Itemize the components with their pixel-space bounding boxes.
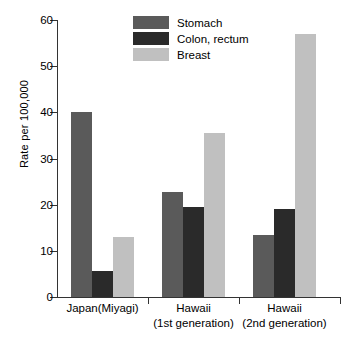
x-axis-group-label-line1: Hawaii: [267, 302, 302, 314]
y-axis-tick-label: 20: [40, 199, 53, 211]
bar-chart: Rate per 100,000 0102030405060 StomachCo…: [0, 0, 350, 350]
bar: [113, 237, 134, 297]
y-axis-tick-label: 60: [40, 14, 53, 26]
bar: [274, 209, 295, 297]
x-axis-group-label: Hawaii(2nd generation): [225, 301, 345, 331]
legend-label: Colon, rectum: [177, 33, 249, 45]
bar: [204, 133, 225, 297]
legend-item: Colon, rectum: [133, 32, 249, 45]
legend-item: Stomach: [133, 16, 249, 29]
x-axis-group-label-line1: Japan(Miyagi): [66, 302, 138, 314]
legend-swatch: [133, 16, 169, 29]
legend-label: Stomach: [177, 17, 222, 29]
y-axis-title: Rate per 100,000: [18, 54, 30, 194]
legend-swatch: [133, 48, 169, 61]
legend-swatch: [133, 32, 169, 45]
legend-item: Breast: [133, 48, 249, 61]
y-axis-tick-label: 40: [40, 106, 53, 118]
x-axis-group-label-line2: (2nd generation): [225, 316, 345, 331]
legend-label: Breast: [177, 49, 210, 61]
bar: [183, 207, 204, 297]
bar: [253, 235, 274, 297]
y-axis-line: [57, 20, 58, 297]
bar: [295, 34, 316, 297]
legend: StomachColon, rectumBreast: [133, 16, 249, 61]
bar: [162, 192, 183, 297]
x-axis-line: [57, 297, 341, 298]
bar: [92, 271, 113, 297]
plot-area: 0102030405060: [57, 20, 341, 297]
y-axis-tick-label: 10: [40, 245, 53, 257]
y-axis-tick-label: 30: [40, 153, 53, 165]
bar: [71, 112, 92, 297]
x-axis-group-label-line1: Hawaii: [176, 302, 211, 314]
y-axis-tick-label: 50: [40, 60, 53, 72]
